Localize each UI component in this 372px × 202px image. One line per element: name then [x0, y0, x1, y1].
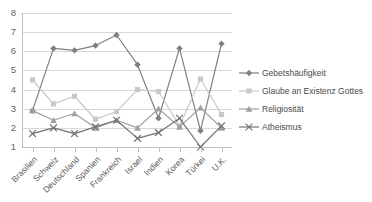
legend-label: Glaube an Existenz Gottes	[260, 86, 363, 96]
line-chart: 12345678 BrasilienSchweizDeutschlandSpan…	[0, 0, 372, 202]
x-tick	[54, 148, 55, 152]
legend-item-glaube-an-existenz-gottes[interactable]: Glaube an Existenz Gottes	[238, 82, 372, 100]
legend-label: Atheismus	[260, 122, 302, 132]
series-religiosit-t	[29, 104, 225, 130]
x-tick	[33, 148, 34, 152]
legend-marker-diamond-icon	[238, 66, 260, 80]
x-tick	[96, 148, 97, 152]
chart-legend: Gebetshäufigkeit Glaube an Existenz Gott…	[238, 64, 372, 136]
x-tick	[138, 148, 139, 152]
series-atheismus	[29, 115, 225, 151]
x-tick	[75, 148, 76, 152]
legend-marker-cross-icon	[238, 120, 260, 134]
legend-marker-square-icon	[238, 84, 260, 98]
legend-label: Religiosität	[260, 104, 304, 114]
legend-item-gebetshaeufigkeit[interactable]: Gebetshäufigkeit	[238, 64, 372, 82]
x-tick	[201, 148, 202, 152]
x-tick	[180, 148, 181, 152]
legend-item-religiositaet[interactable]: Religiosität	[238, 100, 372, 118]
x-tick	[222, 148, 223, 152]
x-tick	[117, 148, 118, 152]
legend-marker-triangle-icon	[238, 102, 260, 116]
x-tick	[159, 148, 160, 152]
legend-label: Gebetshäufigkeit	[260, 68, 326, 78]
series-glaube-an-existenz-gottes	[30, 76, 224, 128]
legend-item-atheismus[interactable]: Atheismus	[238, 118, 372, 136]
